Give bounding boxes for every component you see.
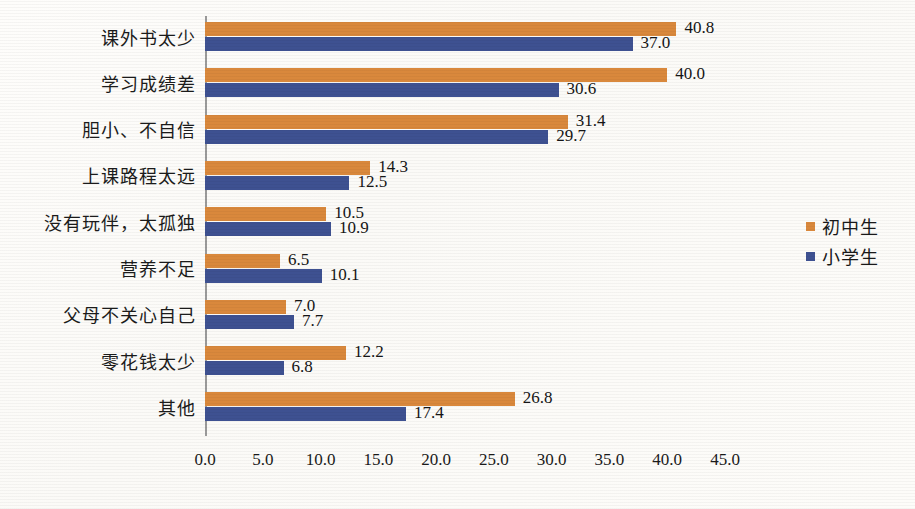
legend-swatch-icon <box>806 222 815 231</box>
bar-value-label: 6.8 <box>292 357 313 377</box>
bar-value-label: 37.0 <box>641 33 671 53</box>
bar-junior <box>205 115 568 129</box>
bar-value-label: 7.7 <box>302 311 323 331</box>
x-axis-tick-label: 30.0 <box>522 450 582 470</box>
bar-value-label: 6.5 <box>288 250 309 270</box>
x-axis-tick-label: 20.0 <box>406 450 466 470</box>
bar-junior <box>205 300 286 314</box>
x-axis-tick-label: 0.0 <box>175 450 235 470</box>
plot-area: 课外书太少40.837.0学习成绩差40.030.6胆小、不自信31.429.7… <box>0 0 915 509</box>
bar-value-label: 29.7 <box>556 126 586 146</box>
bar-junior <box>205 392 515 406</box>
bar-junior <box>205 207 326 221</box>
bar-junior <box>205 254 280 268</box>
legend-item[interactable]: 初中生 <box>806 211 879 241</box>
category-label: 胆小、不自信 <box>82 116 196 142</box>
x-axis-tick-label: 15.0 <box>348 450 408 470</box>
bar-value-label: 10.1 <box>330 265 360 285</box>
bar-primary <box>205 269 322 283</box>
chart-legend: 初中生小学生 <box>806 211 879 271</box>
x-axis-tick-label: 40.0 <box>637 450 697 470</box>
bar-junior <box>205 346 346 360</box>
bar-junior <box>205 22 676 36</box>
bar-value-label: 12.5 <box>357 172 387 192</box>
bar-junior <box>205 161 370 175</box>
bar-primary <box>205 130 548 144</box>
bar-value-label: 30.6 <box>567 79 597 99</box>
bar-primary <box>205 83 559 97</box>
bar-primary <box>205 315 294 329</box>
bar-primary <box>205 361 284 375</box>
category-label: 课外书太少 <box>101 24 196 50</box>
legend-label: 小学生 <box>822 243 879 269</box>
bar-primary <box>205 222 331 236</box>
bar-value-label: 17.4 <box>414 403 444 423</box>
x-axis-tick-label: 45.0 <box>695 450 755 470</box>
x-axis-tick-label: 35.0 <box>579 450 639 470</box>
bar-value-label: 12.2 <box>354 342 384 362</box>
x-axis-tick-label: 25.0 <box>464 450 524 470</box>
x-axis-tick-label: 5.0 <box>233 450 293 470</box>
category-label: 上课路程太远 <box>82 162 196 188</box>
category-label: 父母不关心自己 <box>63 301 196 327</box>
legend-swatch-icon <box>806 252 815 261</box>
bar-value-label: 40.8 <box>684 18 714 38</box>
category-label: 营养不足 <box>120 255 196 281</box>
category-label: 其他 <box>158 394 196 420</box>
legend-label: 初中生 <box>822 213 879 239</box>
x-axis-tick-label: 10.0 <box>291 450 351 470</box>
category-label: 零花钱太少 <box>101 348 196 374</box>
bar-value-label: 10.9 <box>339 218 369 238</box>
bar-value-label: 26.8 <box>523 388 553 408</box>
bar-junior <box>205 68 667 82</box>
bar-primary <box>205 37 633 51</box>
bar-primary <box>205 407 406 421</box>
category-label: 学习成绩差 <box>101 70 196 96</box>
bar-primary <box>205 176 349 190</box>
bar-chart: 课外书太少40.837.0学习成绩差40.030.6胆小、不自信31.429.7… <box>0 0 915 509</box>
legend-item[interactable]: 小学生 <box>806 241 879 271</box>
bar-value-label: 40.0 <box>675 64 705 84</box>
category-label: 没有玩伴，太孤独 <box>44 209 196 235</box>
